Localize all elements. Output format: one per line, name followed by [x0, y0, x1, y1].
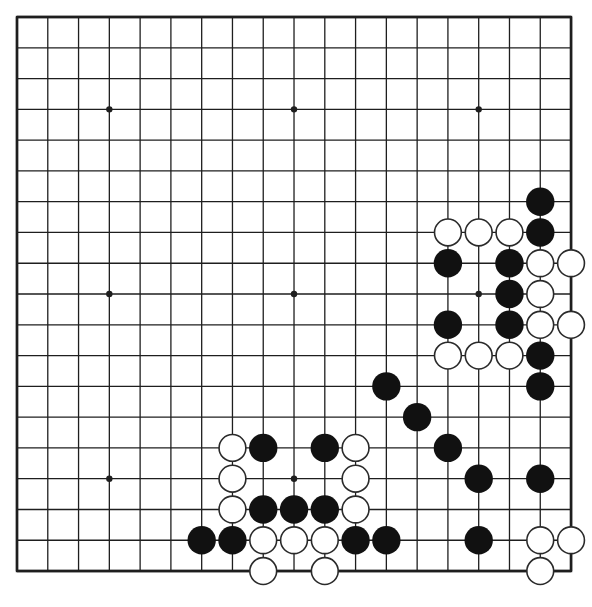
black-stone[interactable] [434, 434, 462, 462]
star-point-icon [476, 291, 482, 297]
star-point-icon [106, 106, 112, 112]
white-stone[interactable] [465, 219, 492, 246]
star-point-icon [291, 476, 297, 482]
white-stone[interactable] [558, 527, 585, 554]
white-stone[interactable] [219, 496, 246, 523]
black-stone[interactable] [495, 311, 523, 339]
white-stone[interactable] [465, 342, 492, 369]
white-stone[interactable] [342, 496, 369, 523]
black-stone[interactable] [372, 526, 400, 554]
white-stone[interactable] [219, 465, 246, 492]
white-stone[interactable] [496, 342, 523, 369]
black-stone[interactable] [526, 187, 554, 215]
black-stone[interactable] [249, 434, 277, 462]
black-stone[interactable] [403, 403, 431, 431]
star-point-icon [106, 476, 112, 482]
black-stone[interactable] [280, 495, 308, 523]
white-stone[interactable] [527, 250, 554, 277]
white-stone[interactable] [311, 558, 338, 585]
black-stone[interactable] [465, 526, 493, 554]
black-stone[interactable] [372, 372, 400, 400]
black-stone[interactable] [526, 465, 554, 493]
black-stone[interactable] [311, 495, 339, 523]
black-stone[interactable] [187, 526, 215, 554]
white-stone[interactable] [527, 527, 554, 554]
white-stone[interactable] [527, 558, 554, 585]
white-stone[interactable] [342, 465, 369, 492]
star-point-icon [291, 106, 297, 112]
white-stone[interactable] [496, 219, 523, 246]
white-stone[interactable] [527, 281, 554, 308]
white-stone[interactable] [435, 342, 462, 369]
black-stone[interactable] [495, 280, 523, 308]
black-stone[interactable] [218, 526, 246, 554]
white-stone[interactable] [311, 527, 338, 554]
white-stone[interactable] [219, 435, 246, 462]
black-stone[interactable] [465, 465, 493, 493]
white-stone[interactable] [281, 527, 308, 554]
black-stone[interactable] [526, 218, 554, 246]
white-stone[interactable] [527, 311, 554, 338]
black-stone[interactable] [434, 311, 462, 339]
black-stone[interactable] [341, 526, 369, 554]
black-stone[interactable] [526, 341, 554, 369]
star-point-icon [291, 291, 297, 297]
white-stone[interactable] [250, 527, 277, 554]
star-point-icon [476, 106, 482, 112]
black-stone[interactable] [311, 434, 339, 462]
black-stone[interactable] [495, 249, 523, 277]
black-stone[interactable] [434, 249, 462, 277]
black-stone[interactable] [249, 495, 277, 523]
white-stone[interactable] [250, 558, 277, 585]
white-stone[interactable] [342, 435, 369, 462]
star-point-icon [106, 291, 112, 297]
white-stone[interactable] [558, 250, 585, 277]
white-stone[interactable] [558, 311, 585, 338]
go-board[interactable] [0, 0, 592, 607]
black-stone[interactable] [526, 372, 554, 400]
white-stone[interactable] [435, 219, 462, 246]
